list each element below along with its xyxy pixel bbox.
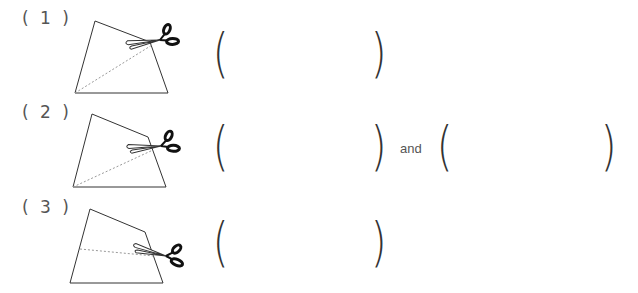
- close-paren: ): [371, 27, 387, 81]
- figures: [0, 0, 638, 293]
- close-paren: ): [371, 216, 387, 270]
- figure-1-quadrilateral: [75, 21, 180, 93]
- scissors-icon: [125, 129, 180, 159]
- figure-2-quadrilateral: [73, 114, 180, 187]
- close-paren: ): [601, 120, 617, 174]
- figure-3-quadrilateral: [70, 209, 187, 283]
- scissors-icon: [131, 234, 187, 267]
- open-paren: (: [437, 120, 453, 174]
- and-connector: and: [400, 141, 422, 156]
- open-paren: (: [213, 216, 229, 270]
- scissors-icon: [124, 22, 180, 55]
- cut-line: [73, 150, 153, 187]
- open-paren: (: [213, 120, 229, 174]
- close-paren: ): [371, 120, 387, 174]
- open-paren: (: [213, 27, 229, 81]
